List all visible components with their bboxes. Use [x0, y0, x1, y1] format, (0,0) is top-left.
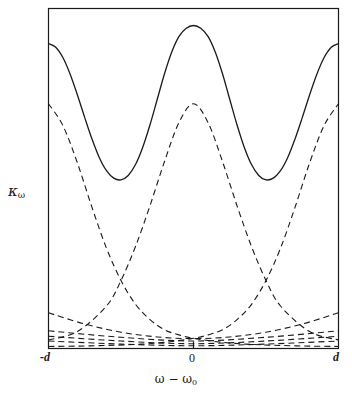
y-axis-label-symbol: κ: [8, 182, 18, 200]
x-axis-label: ω − ω0: [0, 372, 352, 387]
x-tick-label-zero: 0: [189, 351, 195, 366]
y-axis-label: κω: [8, 182, 25, 200]
x-tick-label-d: d: [333, 350, 339, 365]
plot-canvas: [0, 0, 352, 394]
x-axis-label-subscript: 0: [192, 378, 197, 387]
spectral-line-figure: κω -d 0 d ω − ω0: [0, 0, 352, 394]
x-axis-label-text: ω − ω: [155, 372, 192, 386]
y-axis-label-subscript: ω: [18, 190, 25, 200]
x-tick-label-minus-d: -d: [40, 350, 50, 365]
